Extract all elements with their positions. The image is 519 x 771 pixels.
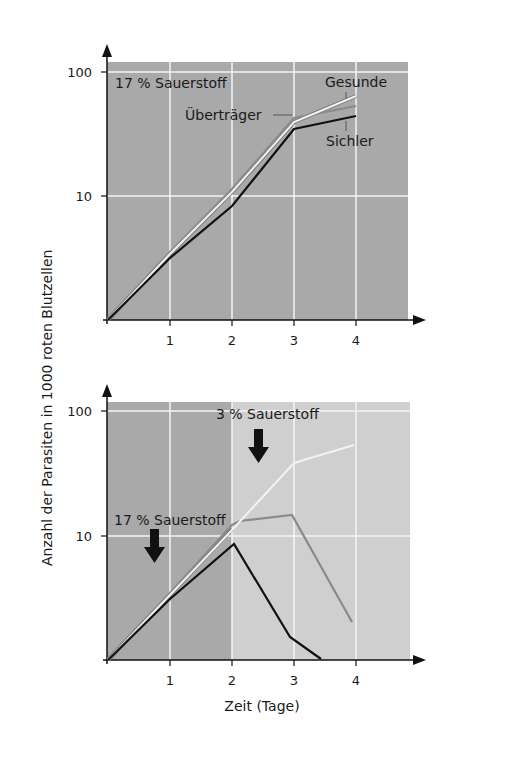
- annotation-oxygen-3: 3 % Sauerstoff: [216, 406, 319, 422]
- x-tick-3: 3: [290, 673, 298, 688]
- annotation-oxygen-17: 17 % Sauerstoff: [115, 75, 227, 91]
- x-tick-2: 2: [228, 673, 236, 688]
- x-tick-4: 4: [352, 673, 360, 688]
- x-tick-1: 1: [166, 333, 174, 348]
- x-tick-2: 2: [228, 333, 236, 348]
- chart-lower: 1 2 3 4 10 100 3 % Sauerstoff 17 % Sauer…: [67, 384, 426, 688]
- y-tick-100: 100: [67, 65, 92, 80]
- x-axis-arrow-icon: [413, 655, 426, 665]
- y-axis-arrow-icon: [102, 384, 112, 397]
- y-tick-10: 10: [75, 189, 92, 204]
- label-gesunde: Gesunde: [325, 74, 387, 90]
- x-axis-arrow-icon: [413, 315, 426, 325]
- x-tick-3: 3: [290, 333, 298, 348]
- x-tick-1: 1: [166, 673, 174, 688]
- x-tick-4: 4: [352, 333, 360, 348]
- chart-upper: 1 2 3 4 10 100 17 % Sauerstoff Gesunde Ü…: [67, 44, 426, 348]
- y-axis-arrow-icon: [102, 44, 112, 57]
- label-uebertraeger: Überträger: [185, 106, 262, 123]
- figure: 1 2 3 4 10 100 17 % Sauerstoff Gesunde Ü…: [0, 0, 519, 771]
- y-tick-10: 10: [75, 529, 92, 544]
- plot-background: [107, 62, 408, 320]
- label-sichler: Sichler: [326, 133, 374, 149]
- x-axis-label: Zeit (Tage): [224, 698, 299, 714]
- annotation-oxygen-17: 17 % Sauerstoff: [114, 512, 226, 528]
- y-axis-label: Anzahl der Parasiten in 1000 roten Blutz…: [39, 250, 55, 566]
- y-tick-100: 100: [67, 404, 92, 419]
